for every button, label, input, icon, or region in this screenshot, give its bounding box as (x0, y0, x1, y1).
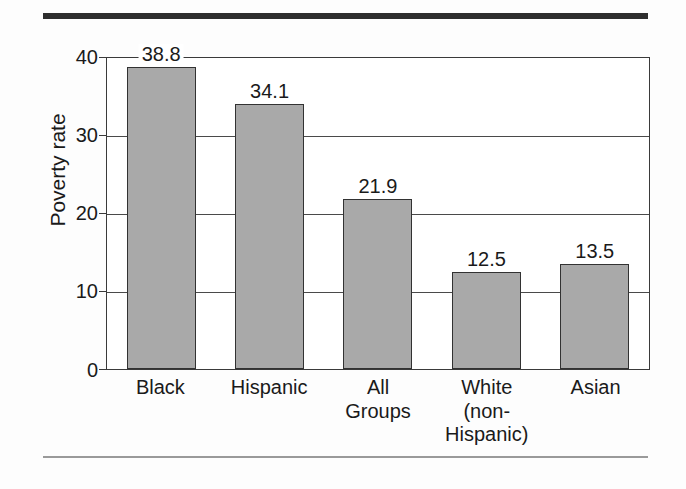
bar-value-all-groups: 21.9 (356, 176, 401, 196)
bar-value-asian: 13.5 (572, 241, 617, 261)
y-tick-label-20: 20 (52, 203, 98, 223)
x-label-black-line-1: Black (106, 376, 215, 400)
x-label-white-non-hispanic: White (non- Hispanic) (432, 376, 541, 447)
plot-area: 38.8 34.1 21.9 12.5 13.5 (106, 57, 650, 370)
bar-all-groups[interactable]: 21.9 (343, 199, 412, 369)
x-axis-category-labels: Black Hispanic All Groups White (non- Hi… (106, 376, 650, 447)
x-label-asian-line-1: Asian (541, 376, 650, 400)
y-axis-title: Poverty rate (46, 90, 70, 250)
bar-slot-hispanic: 34.1 (215, 58, 323, 369)
y-tick-label-30: 30 (52, 125, 98, 145)
y-tick-label-40: 40 (52, 47, 98, 67)
bar-value-white-non-hispanic: 12.5 (464, 249, 509, 269)
bar-slot-asian: 13.5 (541, 58, 649, 369)
y-tick-label-10: 10 (52, 281, 98, 301)
top-divider-rule (43, 13, 648, 19)
y-tick-label-0: 0 (52, 360, 98, 380)
bar-series: 38.8 34.1 21.9 12.5 13.5 (107, 58, 649, 369)
x-label-white-non-hispanic-line-1: White (432, 376, 541, 400)
bar-slot-white-non-hispanic: 12.5 (432, 58, 540, 369)
x-label-all-groups: All Groups (324, 376, 433, 423)
x-label-asian: Asian (541, 376, 650, 400)
x-label-black: Black (106, 376, 215, 400)
bottom-divider-rule (43, 456, 648, 458)
figure-container: Poverty rate 40 30 20 10 0 38.8 34.1 (0, 0, 686, 489)
bar-slot-all-groups: 21.9 (324, 58, 432, 369)
bar-black[interactable]: 38.8 (127, 67, 196, 369)
x-label-all-groups-line-1: All (324, 376, 433, 400)
x-label-hispanic: Hispanic (215, 376, 324, 400)
bar-slot-black: 38.8 (107, 58, 215, 369)
bar-hispanic[interactable]: 34.1 (235, 104, 304, 369)
bar-value-black: 38.8 (139, 44, 184, 64)
x-label-hispanic-line-1: Hispanic (215, 376, 324, 400)
x-label-white-non-hispanic-line-3: Hispanic) (432, 423, 541, 447)
x-label-all-groups-line-2: Groups (324, 400, 433, 424)
x-label-white-non-hispanic-line-2: (non- (432, 400, 541, 424)
bar-asian[interactable]: 13.5 (560, 264, 629, 369)
bar-white-non-hispanic[interactable]: 12.5 (452, 272, 521, 369)
bar-value-hispanic: 34.1 (247, 81, 292, 101)
